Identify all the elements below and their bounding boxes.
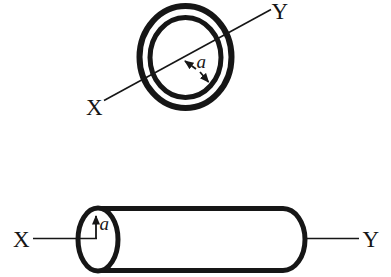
ring-inner-circle bbox=[150, 18, 221, 98]
cylinder-body bbox=[101, 209, 305, 271]
cylinder-end-ellipse bbox=[78, 208, 118, 271]
axis-label-x-bottom: X bbox=[13, 227, 30, 252]
cylinder-figure: X Y a bbox=[13, 208, 380, 271]
radius-label-top: a bbox=[197, 51, 207, 72]
radius-arrow-to-center-icon bbox=[185, 61, 196, 69]
ring-cross-section-figure: X Y a bbox=[86, 0, 289, 120]
axis-label-y-top: Y bbox=[272, 0, 289, 24]
radius-arrow-to-rim-icon bbox=[200, 72, 209, 82]
axis-label-y-bottom: Y bbox=[363, 227, 380, 252]
axis-line-xy-top bbox=[104, 10, 271, 101]
radius-label-bottom: a bbox=[100, 213, 110, 234]
diagram-svg: X Y a X Y a bbox=[0, 0, 391, 277]
axis-label-x-top: X bbox=[86, 95, 103, 120]
figure-canvas: X Y a X Y a bbox=[0, 0, 391, 277]
